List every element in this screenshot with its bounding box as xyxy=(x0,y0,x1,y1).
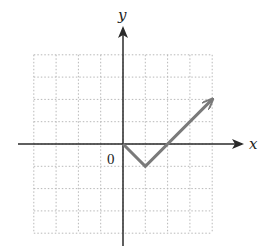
origin-label: 0 xyxy=(107,151,115,167)
graph: x y 0 xyxy=(0,0,266,250)
x-axis-label: x xyxy=(249,135,258,153)
y-axis-label: y xyxy=(117,6,127,24)
